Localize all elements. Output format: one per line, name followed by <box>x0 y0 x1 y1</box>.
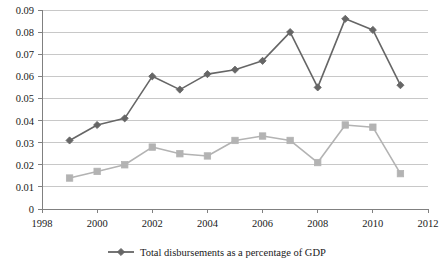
y-tick-label-0.07: 0.07 <box>16 49 34 60</box>
y-tick-label-0.04: 0.04 <box>16 116 35 127</box>
legend-label-0: Total disbursements as a percentage of G… <box>140 247 326 258</box>
x-tick-label-2012: 2012 <box>418 218 439 229</box>
series-0-marker-2008 <box>314 84 321 91</box>
x-tick-label-2008: 2008 <box>307 218 328 229</box>
series-1-marker-2002 <box>149 144 155 150</box>
y-tick-label-0: 0 <box>29 204 34 215</box>
series-1-line <box>70 125 401 178</box>
legend-marker-0 <box>117 248 124 255</box>
series-0-marker-2000 <box>94 121 101 128</box>
series-1-marker-1999 <box>66 175 72 181</box>
legend-entry-0: Total disbursements as a percentage of G… <box>108 247 326 258</box>
gridlines <box>42 10 428 187</box>
y-tick-label-0.03: 0.03 <box>16 138 34 149</box>
series-0-diamond <box>66 15 404 144</box>
series-0-marker-2005 <box>231 66 238 73</box>
x-tick-label-1998: 1998 <box>32 218 53 229</box>
y-tick-label-0.06: 0.06 <box>16 71 34 82</box>
series-0-marker-2011 <box>397 82 404 89</box>
series-1-marker-2000 <box>94 168 100 174</box>
series-0-marker-2009 <box>342 15 349 22</box>
chart-legend: Total disbursements as a percentage of G… <box>108 247 326 258</box>
y-tick-label-0.08: 0.08 <box>16 27 34 38</box>
series-0-line <box>70 19 401 141</box>
chart-container: 00.010.020.030.040.050.060.070.080.09 19… <box>0 0 441 268</box>
x-tick-label-2002: 2002 <box>142 218 163 229</box>
series-1-square <box>66 122 403 181</box>
line-chart: 00.010.020.030.040.050.060.070.080.09 19… <box>0 0 441 268</box>
series-1-marker-2006 <box>259 133 265 139</box>
series-0-marker-2003 <box>176 86 183 93</box>
series-1-marker-2008 <box>315 159 321 165</box>
axes <box>38 10 428 213</box>
x-tick-label-2010: 2010 <box>362 218 383 229</box>
x-tick-label-2006: 2006 <box>252 218 273 229</box>
series-1-marker-2001 <box>122 162 128 168</box>
y-tick-label-0.05: 0.05 <box>16 93 34 104</box>
series-1-marker-2007 <box>287 137 293 143</box>
y-axis-tick-labels: 00.010.020.030.040.050.060.070.080.09 <box>16 5 35 215</box>
series-1-marker-2004 <box>204 153 210 159</box>
y-tick-label-0.01: 0.01 <box>16 182 34 193</box>
series-1-marker-2011 <box>397 170 403 176</box>
x-tick-label-2004: 2004 <box>197 218 219 229</box>
y-tick-label-0.09: 0.09 <box>16 5 34 16</box>
series-1-marker-2010 <box>370 124 376 130</box>
series-1-marker-2003 <box>177 151 183 157</box>
x-tick-label-2000: 2000 <box>87 218 108 229</box>
series-1-marker-2009 <box>342 122 348 128</box>
series-1-marker-2005 <box>232 137 238 143</box>
x-axis-tick-labels: 19982000200220042006200820102012 <box>32 218 439 229</box>
y-tick-label-0.02: 0.02 <box>16 160 34 171</box>
